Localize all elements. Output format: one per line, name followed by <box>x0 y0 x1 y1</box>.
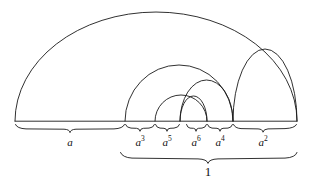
arc-a2 <box>233 49 297 121</box>
brace-a5 <box>156 125 180 132</box>
segment-label-a2: a2 <box>258 134 267 148</box>
brace-a4 <box>208 125 233 132</box>
segment-label-a: a <box>67 134 73 148</box>
segment-label-a6: a6 <box>191 134 200 148</box>
arc-a <box>15 12 297 121</box>
segment-label-a4: a4 <box>215 134 224 148</box>
arc-a3 <box>125 65 233 121</box>
total-label: 1 <box>205 164 212 180</box>
segment-label-a5: a5 <box>162 134 171 148</box>
brace-a3 <box>126 125 155 132</box>
brace-a6 <box>187 125 207 132</box>
figure-canvas <box>0 0 314 183</box>
brace-a2 <box>234 125 297 133</box>
brace-total <box>121 153 298 164</box>
brace-a <box>16 125 125 133</box>
segment-label-a3: a3 <box>135 134 144 148</box>
geometric-series-figure: a a3 a5 a6 a4 a2 1 <box>0 0 314 183</box>
